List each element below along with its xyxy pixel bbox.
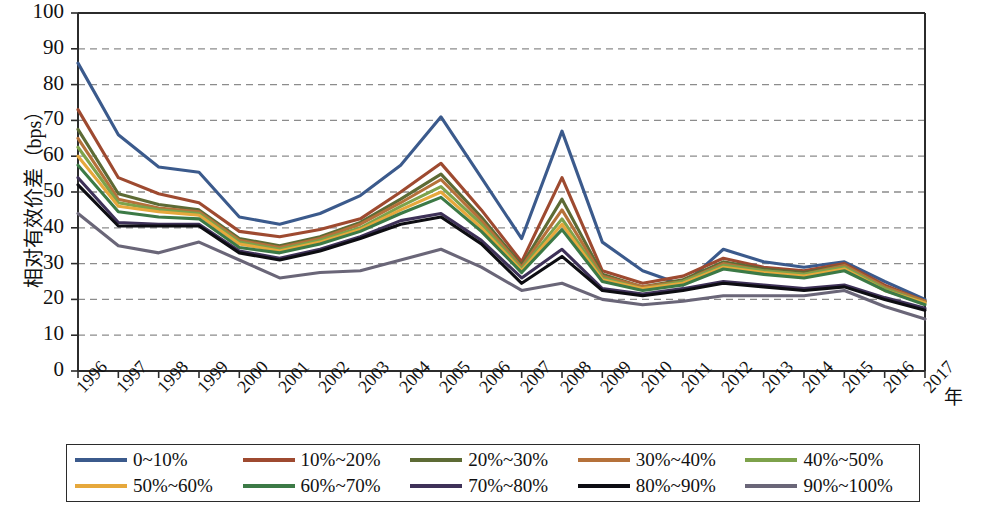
legend-item[interactable]: 50%~60%	[75, 475, 243, 497]
legend-item[interactable]: 0~10%	[75, 449, 243, 471]
legend-item[interactable]: 30%~40%	[578, 449, 746, 471]
legend-item-label: 0~10%	[133, 449, 188, 471]
y-tick-label: 40	[8, 214, 64, 239]
legend-color-swatch	[75, 484, 127, 488]
legend-item-label: 10%~20%	[301, 449, 381, 471]
y-tick-label: 50	[8, 178, 64, 203]
legend-color-swatch	[75, 458, 127, 462]
legend-color-swatch	[410, 484, 462, 488]
legend-color-swatch	[578, 484, 630, 488]
legend-item[interactable]: 60%~70%	[243, 475, 411, 497]
legend-item[interactable]: 20%~30%	[410, 449, 578, 471]
legend-color-swatch	[745, 484, 797, 488]
legend-item-label: 30%~40%	[636, 449, 716, 471]
legend-color-swatch	[243, 484, 295, 488]
y-tick-label: 0	[8, 357, 64, 382]
y-tick-label: 70	[8, 106, 64, 131]
legend-color-swatch	[243, 458, 295, 462]
legend-item[interactable]: 80%~90%	[578, 475, 746, 497]
y-tick-label: 60	[8, 142, 64, 167]
legend-item[interactable]: 10%~20%	[243, 449, 411, 471]
plot-container: 相对有效价差（bps） 年 10090807060504030201001996…	[0, 0, 986, 440]
legend-color-swatch	[578, 458, 630, 462]
chart-figure: 相对有效价差（bps） 年 10090807060504030201001996…	[0, 0, 986, 508]
legend-color-swatch	[410, 458, 462, 462]
legend-item-label: 40%~50%	[803, 449, 883, 471]
chart-legend: 0~10%10%~20%20%~30%30%~40%40%~50%50%~60%…	[66, 444, 920, 502]
y-tick-label: 80	[8, 71, 64, 96]
y-tick-label: 30	[8, 250, 64, 275]
y-tick-label: 100	[8, 0, 64, 24]
legend-item[interactable]: 40%~50%	[745, 449, 913, 471]
legend-item[interactable]: 70%~80%	[410, 475, 578, 497]
legend-item-label: 70%~80%	[468, 475, 548, 497]
legend-item-label: 80%~90%	[636, 475, 716, 497]
legend-item-label: 50%~60%	[133, 475, 213, 497]
legend-color-swatch	[745, 458, 797, 462]
legend-item-label: 20%~30%	[468, 449, 548, 471]
y-tick-label: 20	[8, 285, 64, 310]
y-tick-label: 10	[8, 321, 64, 346]
y-tick-label: 90	[8, 35, 64, 60]
legend-item[interactable]: 90%~100%	[745, 475, 913, 497]
legend-item-label: 60%~70%	[301, 475, 381, 497]
legend-item-label: 90%~100%	[803, 475, 892, 497]
